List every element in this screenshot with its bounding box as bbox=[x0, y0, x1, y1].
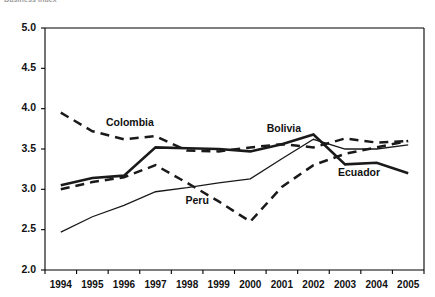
y-tick-label: 3.0 bbox=[21, 182, 36, 194]
x-tick-label: 1995 bbox=[81, 279, 104, 290]
y-tick-label: 4.5 bbox=[21, 61, 36, 73]
x-tick-label: 1998 bbox=[176, 279, 199, 290]
x-tick-label: 2005 bbox=[397, 279, 420, 290]
y-tick-label: 2.0 bbox=[21, 263, 36, 275]
series-label-colombia: Colombia bbox=[106, 116, 154, 128]
series-label-peru: Peru bbox=[185, 194, 208, 206]
series-line-peru bbox=[61, 139, 408, 232]
series-label-bolivia: Bolivia bbox=[267, 122, 302, 134]
x-tick-label: 1996 bbox=[113, 279, 136, 290]
y-tick-label: 5.0 bbox=[21, 21, 36, 33]
x-tick-label: 2002 bbox=[302, 279, 325, 290]
x-axis-tick-labels: 1994199519961997199819992000200120022003… bbox=[50, 279, 420, 290]
x-tick-label: 1999 bbox=[208, 279, 231, 290]
line-chart-plot: 2.02.53.03.54.04.55.0 199419951996199719… bbox=[0, 0, 435, 297]
x-tick-label: 2004 bbox=[366, 279, 389, 290]
x-tick-label: 1994 bbox=[50, 279, 73, 290]
chart-container: Business Index 2.02.53.03.54.04.55.0 199… bbox=[0, 0, 435, 297]
series-label-ecuador: Ecuador bbox=[338, 166, 380, 178]
y-tick-label: 4.0 bbox=[21, 101, 36, 113]
x-tick-label: 1997 bbox=[144, 279, 167, 290]
x-tick-label: 2003 bbox=[334, 279, 357, 290]
x-tick-label: 2001 bbox=[271, 279, 294, 290]
x-tick-label: 2000 bbox=[239, 279, 262, 290]
y-tick-label: 3.5 bbox=[21, 142, 36, 154]
y-axis-tick-labels: 2.02.53.03.54.04.55.0 bbox=[21, 21, 36, 275]
y-tick-label: 2.5 bbox=[21, 222, 36, 234]
y-axis-tick-marks bbox=[41, 28, 45, 270]
series-inline-labels: ColombiaBoliviaPeruEcuador bbox=[106, 116, 380, 205]
x-axis-tick-marks bbox=[45, 270, 424, 274]
